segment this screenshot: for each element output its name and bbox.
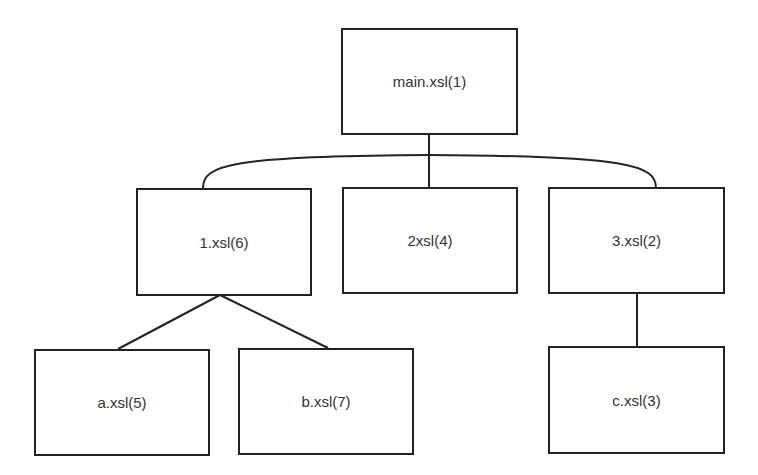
node-a-xsl[interactable]: a.xsl(5) xyxy=(34,349,210,456)
edge-1xsl-to-bxsl xyxy=(220,295,328,348)
node-3-xsl[interactable]: 3.xsl(2) xyxy=(548,187,725,294)
node-label: 1.xsl(6) xyxy=(199,234,248,251)
node-label: main.xsl(1) xyxy=(393,73,466,90)
node-c-xsl[interactable]: c.xsl(3) xyxy=(548,346,725,454)
node-label: b.xsl(7) xyxy=(301,393,350,410)
node-label: 2xsl(4) xyxy=(407,232,452,249)
node-main-xsl[interactable]: main.xsl(1) xyxy=(341,28,518,135)
node-b-xsl[interactable]: b.xsl(7) xyxy=(238,348,414,455)
node-label: c.xsl(3) xyxy=(612,392,660,409)
node-1-xsl[interactable]: 1.xsl(6) xyxy=(136,188,312,296)
xsl-include-tree-diagram: main.xsl(1) 1.xsl(6) 2xsl(4) 3.xsl(2) a.… xyxy=(0,0,758,475)
edge-1xsl-to-axsl xyxy=(118,295,220,349)
node-label: a.xsl(5) xyxy=(97,394,146,411)
node-label: 3.xsl(2) xyxy=(612,232,661,249)
node-2-xsl[interactable]: 2xsl(4) xyxy=(342,187,518,294)
